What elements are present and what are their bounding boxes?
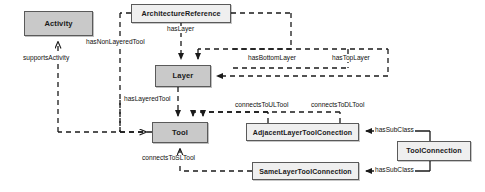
node-layer-label: Layer [173,72,194,80]
node-architecture-reference[interactable]: ArchitectureReference [131,4,231,23]
edge-label-has-top-layer: hasTopLayer [331,55,371,62]
edge-supports-activity [58,42,152,132]
diagram-canvas: Activity ArchitectureReference Layer Too… [0,0,485,192]
edge-label-has-sub-class-adjacent: hasSubClass [374,127,415,134]
edge-has-non-layered-tool [120,13,146,132]
node-layer[interactable]: Layer [155,65,211,87]
edge-label-connects-to-sl-tool: connectsToSLTool [141,155,196,162]
node-tool-connection[interactable]: ToolConnection [397,141,471,161]
edge-label-has-sub-class-same: hasSubClass [374,167,415,174]
node-tool-label: Tool [172,129,188,137]
node-adjacent-layer-tool-conection-label: AdjacentLayerToolConection [253,129,352,136]
node-architecture-reference-label: ArchitectureReference [141,10,220,17]
node-activity[interactable]: Activity [24,11,93,36]
node-activity-label: Activity [44,20,72,28]
edge-label-has-bottom-layer: hasBottomLayer [247,55,297,62]
node-same-layer-tool-connection-label: SameLayerToolConnection [259,168,351,175]
edge-label-has-layer: hasLayer [166,26,195,33]
node-adjacent-layer-tool-conection[interactable]: AdjacentLayerToolConection [246,123,359,141]
node-tool[interactable]: Tool [152,122,208,143]
node-same-layer-tool-connection[interactable]: SameLayerToolConnection [252,162,359,180]
edge-label-connects-to-ul-tool: connectsToULTool [234,102,289,109]
edge-label-connects-to-dl-tool: connectsToDLTool [310,102,365,109]
edge-connects-to-dl-tool [203,112,340,123]
edge-label-has-layered-tool: hasLayeredTool [123,96,172,103]
node-tool-connection-label: ToolConnection [406,147,462,154]
edge-label-supports-activity: supportsActivity [22,55,70,62]
edge-label-has-non-layered-tool: hasNonLayeredTool [85,39,146,46]
